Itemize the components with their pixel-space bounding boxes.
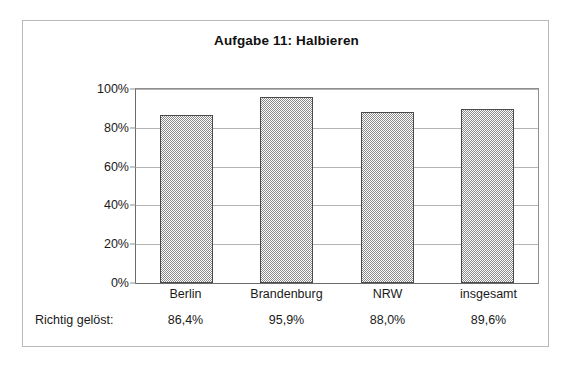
value-berlin: 86,4% xyxy=(135,313,236,327)
x-axis-label-nrw: NRW xyxy=(337,287,438,301)
chart-title: Aufgabe 11: Halbieren xyxy=(23,33,550,48)
value-row-label: Richtig gelöst: xyxy=(23,313,135,327)
x-axis-label-insgesamt: insgesamt xyxy=(438,287,539,301)
bar-brandenburg xyxy=(260,97,313,283)
bar-berlin xyxy=(160,115,213,283)
bar-nrw xyxy=(361,112,414,283)
bar-slot xyxy=(438,89,539,283)
value-row-values: 86,4%95,9%88,0%89,6% xyxy=(135,313,539,327)
y-axis-tick-label: 60% xyxy=(104,160,129,174)
value-brandenburg: 95,9% xyxy=(236,313,337,327)
bar-slot xyxy=(136,89,237,283)
value-nrw: 88,0% xyxy=(337,313,438,327)
bar-series xyxy=(136,89,538,283)
bar-slot xyxy=(337,89,438,283)
y-axis-tick-label: 80% xyxy=(104,121,129,135)
y-axis-tick-label: 100% xyxy=(97,82,129,96)
bar-insgesamt xyxy=(461,109,514,283)
x-axis-labels: BerlinBrandenburgNRWinsgesamt xyxy=(135,287,539,301)
value-insgesamt: 89,6% xyxy=(438,313,539,327)
y-axis-tick-label: 20% xyxy=(104,237,129,251)
plot-area: 0%20%40%60%80%100% xyxy=(135,88,539,284)
y-axis-tick-label: 40% xyxy=(104,198,129,212)
x-axis-label-brandenburg: Brandenburg xyxy=(236,287,337,301)
chart-figure: Aufgabe 11: Halbieren 0%20%40%60%80%100%… xyxy=(22,20,549,347)
bar-slot xyxy=(237,89,338,283)
y-axis-tick-label: 0% xyxy=(111,276,129,290)
x-axis-label-berlin: Berlin xyxy=(135,287,236,301)
value-row: Richtig gelöst: 86,4%95,9%88,0%89,6% xyxy=(23,313,550,327)
